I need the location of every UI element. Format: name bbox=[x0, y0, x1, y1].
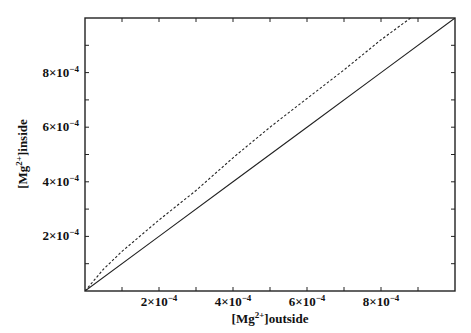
x-axis-title: [Mg2+]outside bbox=[232, 310, 309, 326]
series-solid-line bbox=[85, 18, 455, 291]
y-tick-label: 2×10−4 bbox=[42, 227, 79, 243]
x-tick-label: 6×10−4 bbox=[289, 293, 326, 309]
series-dashed-line bbox=[85, 18, 411, 291]
chart: 2×10−44×10−46×10−48×10−4 2×10−44×10−46×1… bbox=[0, 0, 471, 333]
y-tick-label: 6×10−4 bbox=[42, 118, 79, 134]
x-axis-ticks: 2×10−44×10−46×10−48×10−4 bbox=[122, 18, 418, 309]
x-tick-label: 4×10−4 bbox=[215, 293, 252, 309]
x-tick-label: 2×10−4 bbox=[141, 293, 178, 309]
x-tick-label: 8×10−4 bbox=[363, 293, 400, 309]
y-tick-label: 4×10−4 bbox=[42, 173, 79, 189]
y-axis-ticks: 2×10−44×10−46×10−48×10−4 bbox=[42, 45, 455, 263]
y-axis-title: [Mg2+]inside bbox=[14, 119, 30, 189]
data-series bbox=[85, 18, 455, 291]
y-tick-label: 8×10−4 bbox=[42, 64, 79, 80]
